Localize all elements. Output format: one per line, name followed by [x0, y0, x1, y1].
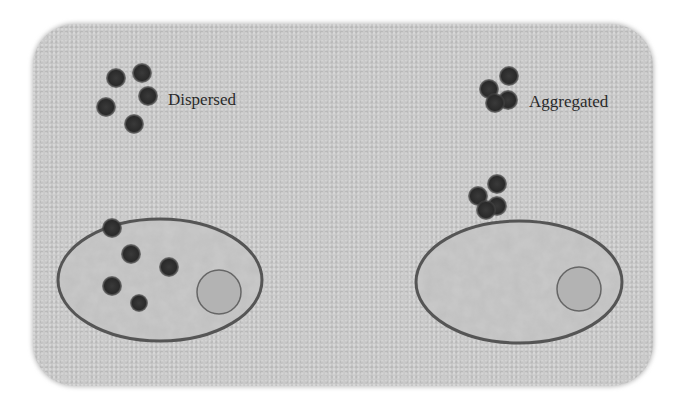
particle — [499, 66, 519, 86]
particle — [102, 218, 122, 238]
dispersed-free-particles — [96, 63, 158, 134]
particle — [106, 68, 126, 88]
dispersed-label: Dispersed — [168, 90, 236, 110]
particle — [102, 276, 122, 296]
right-cell — [416, 174, 622, 343]
diagram-scene — [0, 0, 677, 409]
particle — [138, 86, 158, 106]
nucleus — [197, 270, 241, 314]
particle — [130, 294, 148, 312]
particle — [159, 257, 179, 277]
particle — [132, 63, 152, 83]
particle — [476, 200, 496, 220]
particle — [487, 174, 507, 194]
aggregated-free-cluster — [479, 66, 519, 113]
particle — [124, 114, 144, 134]
nucleus — [557, 267, 601, 311]
particle — [96, 97, 116, 117]
left-cell — [58, 218, 262, 341]
particle — [121, 244, 141, 264]
particle — [485, 93, 505, 113]
aggregated-label: Aggregated — [529, 92, 608, 112]
